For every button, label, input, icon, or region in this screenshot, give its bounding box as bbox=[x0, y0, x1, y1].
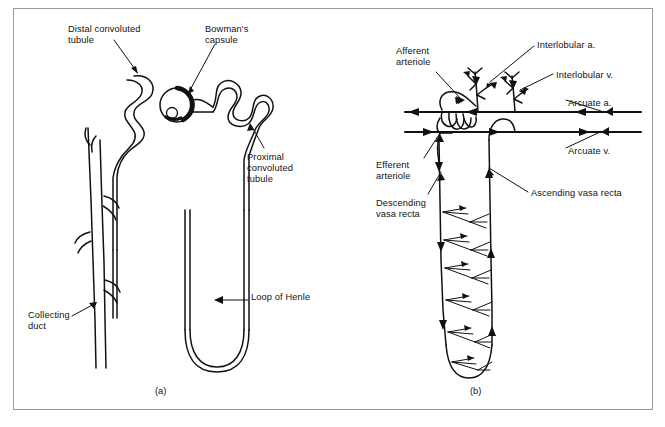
label-arcuate-a: Arcuate a. bbox=[568, 98, 611, 109]
label-collecting-duct: Collecting duct bbox=[28, 310, 70, 332]
label-distal-convoluted-tubule: Distal convoluted tubule bbox=[68, 24, 141, 46]
interlobular-artery-shape bbox=[468, 68, 486, 112]
label-descending-vasa-recta: Descending vasa recta bbox=[376, 198, 426, 220]
bowmans-capsule-shape bbox=[160, 88, 213, 122]
vasa-recta-capillary-tufts bbox=[443, 208, 493, 370]
label-interlobular-v: Interlobular v. bbox=[556, 70, 613, 81]
distal-convoluted-tubule-shape bbox=[113, 76, 153, 318]
interlobular-artery-arrows bbox=[463, 71, 492, 89]
panel-caption-a: (a) bbox=[155, 386, 166, 396]
label-arcuate-v: Arcuate v. bbox=[568, 146, 610, 157]
panel-b-leader-lines bbox=[424, 46, 604, 194]
figure-page: Distal convoluted tubule Bowman's capsul… bbox=[0, 0, 665, 427]
loop-of-henle-shape bbox=[185, 330, 249, 372]
label-loop-of-henle: Loop of Henle bbox=[251, 292, 310, 303]
figure-artwork bbox=[0, 0, 665, 427]
label-proximal-convoluted-tubule: Proximal convoluted tubule bbox=[247, 152, 293, 186]
label-ascending-vasa-recta: Ascending vasa recta bbox=[531, 188, 622, 199]
capillary-tuft-arrowheads bbox=[459, 205, 474, 361]
label-bowmans-capsule: Bowman's capsule bbox=[205, 24, 248, 46]
label-efferent-arteriole: Efferent arteriole bbox=[376, 160, 411, 182]
panel-caption-b: (b) bbox=[470, 386, 481, 396]
vasa-recta-bundle-shape bbox=[439, 119, 515, 378]
interlobular-vein-shape bbox=[505, 72, 523, 112]
label-afferent-arteriole: Afferent arteriole bbox=[396, 46, 431, 68]
label-interlobular-a: Interlobular a. bbox=[537, 40, 595, 51]
